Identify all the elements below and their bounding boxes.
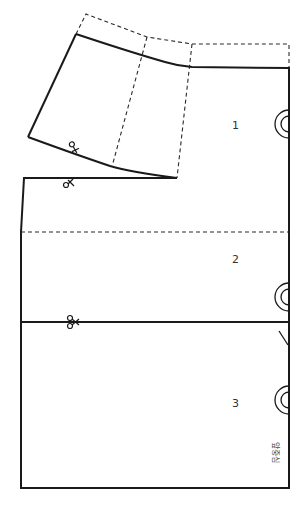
slash-line-right — [177, 44, 192, 178]
double-circle-icon — [275, 110, 289, 138]
pattern-diagram: 1 2 3 앞중심 — [0, 0, 306, 517]
spread-outline — [76, 14, 289, 68]
front-center-label: 앞중심 — [271, 442, 281, 463]
double-circle-icon — [275, 386, 289, 414]
section-label-1: 1 — [232, 119, 239, 132]
scissors-icon — [64, 179, 75, 188]
section-1-outline — [76, 34, 289, 178]
section-1-bottom-curve — [28, 137, 177, 178]
section-label-2: 2 — [232, 253, 239, 266]
section-1-left-edge — [28, 34, 76, 137]
section-2-3-outline — [21, 178, 289, 488]
notch-mark — [279, 331, 288, 345]
double-circle-icon — [275, 283, 289, 311]
section-label-3: 3 — [232, 397, 239, 410]
